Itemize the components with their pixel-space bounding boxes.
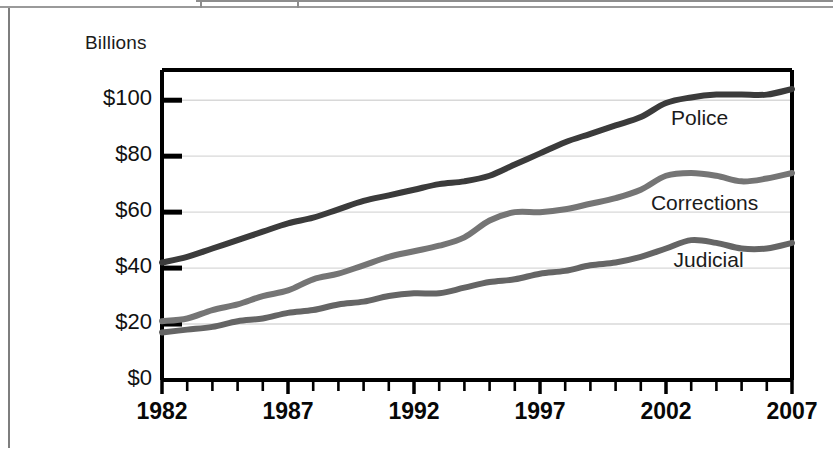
y-major-tick-group [162, 100, 182, 324]
chart-figure: Billions $0$20$40$60$80$100 198219871992… [0, 0, 833, 454]
plot-area [0, 0, 833, 454]
series-label-judicial: Judicial [674, 248, 744, 272]
series-label-corrections: Corrections [651, 191, 758, 215]
x-minor-tick-group [162, 380, 792, 394]
series-label-police: Police [671, 106, 728, 130]
